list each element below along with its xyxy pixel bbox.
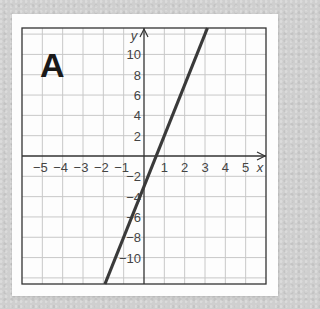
y-axis-label: y: [130, 28, 139, 43]
x-tick-label: 1: [161, 160, 168, 175]
tick-labels: −5−4−3−2−112345108642−2−4−6−8−10xy: [33, 28, 264, 266]
x-axis-label: x: [256, 160, 264, 175]
panel-label: A: [40, 46, 65, 85]
y-tick-label: 2: [134, 129, 141, 144]
y-tick-label: −10: [119, 251, 141, 266]
x-tick-label: −3: [74, 160, 89, 175]
y-tick-label: 8: [134, 68, 141, 83]
x-tick-label: 2: [181, 160, 188, 175]
y-tick-label: −8: [126, 230, 141, 245]
x-tick-label: −2: [94, 160, 109, 175]
y-tick-label: 4: [134, 108, 141, 123]
x-tick-label: −5: [33, 160, 48, 175]
y-tick-label: 6: [134, 88, 141, 103]
x-tick-label: 3: [201, 160, 208, 175]
x-tick-label: 4: [222, 160, 229, 175]
y-tick-label: −2: [126, 169, 141, 184]
x-tick-label: −4: [53, 160, 68, 175]
y-tick-label: 10: [127, 47, 141, 62]
x-tick-label: 5: [242, 160, 249, 175]
